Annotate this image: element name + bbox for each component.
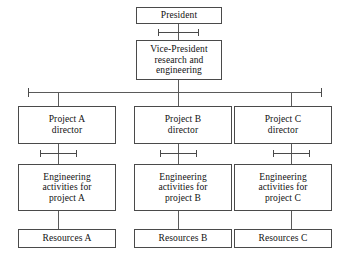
node-director-a[interactable]: Project A director — [18, 106, 116, 144]
node-engineering-a[interactable]: Engineering activities for project A — [18, 164, 116, 211]
node-resources-a-label: Resources A — [41, 233, 94, 244]
dimension-bar — [158, 32, 199, 33]
dimension-cap-right — [76, 150, 77, 157]
node-resources-c[interactable]: Resources C — [234, 229, 332, 248]
node-director-c[interactable]: Project C director — [234, 106, 332, 144]
dimension-bar — [160, 153, 197, 154]
dimension-bar — [40, 153, 77, 154]
connector-vp-to-bus — [178, 80, 179, 92]
distribution-bus-cap-right — [321, 88, 322, 97]
node-engineering-a-label: Engineering activities for project A — [40, 172, 93, 204]
dimension-cap-right — [309, 150, 310, 157]
node-president[interactable]: President — [136, 7, 222, 24]
connector-bus-director-c — [291, 92, 292, 106]
connector-engineering-a-resources-a — [58, 211, 59, 229]
node-president-label: President — [159, 10, 199, 21]
node-director-c-label: Project C director — [263, 114, 304, 135]
connector-bus-director-a — [58, 92, 59, 106]
node-engineering-c-label: Engineering activities for project C — [256, 172, 309, 204]
connector-engineering-b-resources-b — [178, 211, 179, 229]
distribution-bus — [28, 92, 322, 93]
dimension-marker-director-b — [160, 150, 197, 157]
node-engineering-b-label: Engineering activities for project B — [156, 172, 209, 204]
dimension-marker-director-a — [40, 150, 77, 157]
node-resources-c-label: Resources C — [257, 233, 310, 244]
node-engineering-c[interactable]: Engineering activities for project C — [234, 164, 332, 211]
node-vice-president-label: Vice-President research and engineering — [148, 44, 209, 76]
node-director-a-label: Project A director — [47, 114, 88, 135]
distribution-bus-cap-left — [28, 88, 29, 97]
org-chart-diagram: President Vice-President research and en… — [0, 0, 350, 264]
dimension-marker-director-c — [273, 150, 310, 157]
dimension-cap-right — [198, 29, 199, 36]
dimension-cap-right — [196, 150, 197, 157]
node-engineering-b[interactable]: Engineering activities for project B — [134, 164, 232, 211]
node-resources-b[interactable]: Resources B — [134, 229, 232, 248]
node-resources-a[interactable]: Resources A — [18, 229, 116, 248]
connector-engineering-c-resources-c — [291, 211, 292, 229]
node-resources-b-label: Resources B — [157, 233, 210, 244]
connector-bus-director-b — [178, 92, 179, 106]
dimension-marker-president-vp — [158, 29, 199, 36]
node-vice-president[interactable]: Vice-President research and engineering — [136, 40, 222, 80]
node-director-b-label: Project B director — [163, 114, 204, 135]
node-director-b[interactable]: Project B director — [134, 106, 232, 144]
dimension-bar — [273, 153, 310, 154]
